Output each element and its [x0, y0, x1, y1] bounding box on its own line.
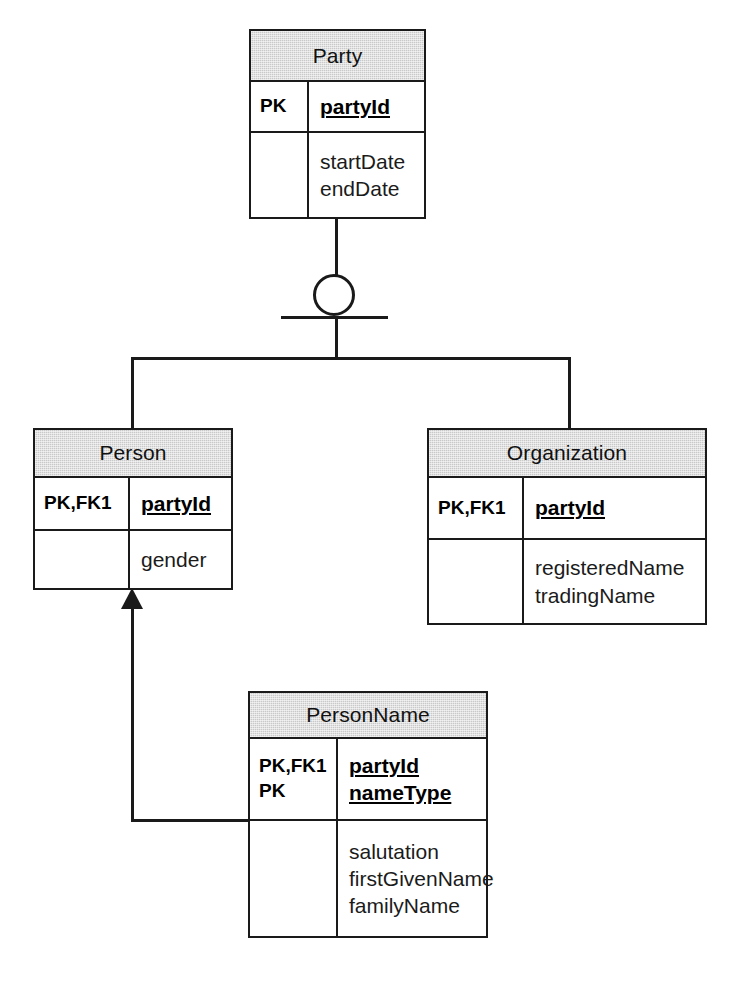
entity-personname-key-labels: PK,FK1 PK — [250, 739, 338, 819]
entity-person-key-attributes: partyId — [130, 478, 231, 529]
subtype-stem-upper — [335, 219, 338, 277]
personname-relationship-vertical — [131, 605, 134, 821]
attribute: startDate — [320, 148, 424, 175]
entity-personname[interactable]: PersonName PK,FK1 PK partyId nameType sa… — [248, 691, 488, 938]
key-attribute: partyId — [535, 494, 705, 521]
subtype-branch-bar — [131, 357, 571, 360]
attribute: familyName — [349, 892, 494, 919]
entity-party-key-labels: PK — [251, 82, 309, 131]
attribute: salutation — [349, 838, 494, 865]
entity-person-key-labels: PK,FK1 — [35, 478, 130, 529]
entity-party[interactable]: Party PK partyId startDate endDate — [249, 29, 426, 219]
subtype-stem-lower — [335, 316, 338, 359]
key-attribute: partyId — [141, 490, 231, 517]
entity-person-attr-gutter — [35, 531, 130, 588]
key-attribute: partyId — [320, 93, 424, 120]
entity-person-attribute-section: gender — [35, 531, 231, 588]
attribute: firstGivenName — [349, 865, 494, 892]
entity-personname-title: PersonName — [250, 693, 486, 739]
attribute: registeredName — [535, 554, 705, 581]
attribute: endDate — [320, 175, 424, 202]
attribute: gender — [141, 546, 231, 573]
entity-organization-attr-gutter — [429, 540, 524, 623]
entity-organization-key-attributes: partyId — [524, 478, 705, 538]
personname-relationship-horizontal — [131, 819, 250, 822]
subtype-branch-left-drop — [131, 357, 134, 429]
entity-party-attributes: startDate endDate — [309, 133, 424, 217]
key-attribute: partyId — [349, 752, 486, 779]
entity-party-attr-gutter — [251, 133, 309, 217]
key-label: PK,FK1 — [438, 496, 522, 521]
entity-party-attribute-section: startDate endDate — [251, 133, 424, 217]
entity-party-key-attributes: partyId — [309, 82, 424, 131]
entity-person[interactable]: Person PK,FK1 partyId gender — [33, 428, 233, 590]
entity-organization-title: Organization — [429, 430, 705, 478]
entity-personname-attributes: salutation firstGivenName familyName — [338, 821, 494, 936]
key-label: PK — [259, 779, 336, 804]
entity-organization-key-section: PK,FK1 partyId — [429, 478, 705, 540]
er-diagram-canvas: Party PK partyId startDate endDate Pers — [0, 0, 739, 985]
entity-organization-attributes: registeredName tradingName — [524, 540, 705, 623]
entity-organization-attribute-section: registeredName tradingName — [429, 540, 705, 623]
entity-organization-key-labels: PK,FK1 — [429, 478, 524, 538]
entity-party-key-section: PK partyId — [251, 82, 424, 133]
subtype-branch-right-drop — [568, 357, 571, 429]
key-label: PK,FK1 — [259, 754, 336, 779]
entity-organization[interactable]: Organization PK,FK1 partyId registeredNa… — [427, 428, 707, 625]
subtype-discriminator-circle — [313, 274, 355, 316]
entity-personname-attr-gutter — [250, 821, 338, 936]
personname-relationship-arrowhead — [121, 588, 143, 609]
entity-person-title: Person — [35, 430, 231, 478]
attribute: tradingName — [535, 582, 705, 609]
key-label: PK — [260, 94, 307, 119]
key-attribute: nameType — [349, 779, 486, 806]
key-label: PK,FK1 — [44, 491, 128, 516]
entity-party-title: Party — [251, 31, 424, 82]
entity-personname-attribute-section: salutation firstGivenName familyName — [250, 821, 486, 936]
entity-person-key-section: PK,FK1 partyId — [35, 478, 231, 531]
entity-person-attributes: gender — [130, 531, 231, 588]
entity-personname-key-section: PK,FK1 PK partyId nameType — [250, 739, 486, 821]
entity-personname-key-attributes: partyId nameType — [338, 739, 486, 819]
